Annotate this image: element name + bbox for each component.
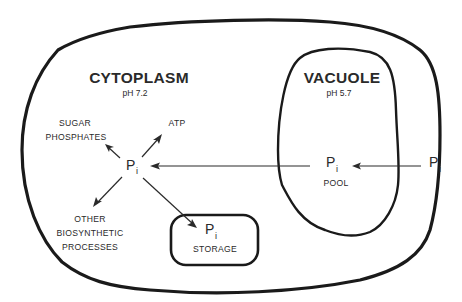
- other-label-line3: PROCESSES: [62, 242, 118, 252]
- arrow-external-to-pool: [352, 163, 421, 170]
- other-label-line2: BIOSYNTHETIC: [56, 228, 123, 238]
- pool-pi-symbol: P: [326, 154, 335, 170]
- pool-pi-subscript: i: [336, 164, 338, 174]
- atp-label: ATP: [169, 118, 186, 128]
- cytoplasm-title: CYTOPLASM: [89, 69, 189, 86]
- cytoplasm-ph: pH 7.2: [122, 88, 147, 98]
- arrow-central-to-sugar-phosphates: [105, 144, 120, 158]
- vacuole-title: VACUOLE: [304, 69, 381, 86]
- arrow-central-to-storage: [143, 178, 197, 228]
- storage-pi-node: P i STORAGE: [193, 221, 237, 254]
- external-pi-subscript: i: [439, 164, 441, 174]
- storage-label: STORAGE: [193, 244, 237, 254]
- central-pi-symbol: P: [126, 157, 135, 173]
- arrow-pool-to-central: [150, 163, 310, 170]
- other-label-line1: OTHER: [74, 214, 106, 224]
- arrow-central-to-other-processes: [93, 177, 122, 207]
- external-pi-symbol: P: [429, 154, 438, 170]
- sugar-phosphates-label-line2: PHOSPHATES: [45, 132, 106, 142]
- vacuole-ph: pH 5.7: [326, 88, 351, 98]
- central-pi-subscript: i: [136, 166, 138, 176]
- arrow-central-to-atp: [142, 134, 162, 157]
- storage-pi-subscript: i: [215, 231, 217, 241]
- pool-label: POOL: [323, 178, 348, 188]
- central-pi-node: P i: [126, 157, 138, 176]
- storage-pi-symbol: P: [205, 221, 214, 237]
- pool-pi-node: P i POOL: [323, 154, 348, 188]
- phosphate-compartment-diagram: CYTOPLASM pH 7.2 VACUOLE pH 5.7 SUGAR PH…: [0, 0, 462, 302]
- sugar-phosphates-label-line1: SUGAR: [59, 118, 91, 128]
